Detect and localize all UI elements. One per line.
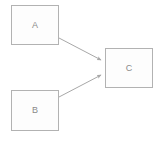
node-a-label: A — [32, 21, 38, 30]
node-c[interactable]: C — [105, 48, 153, 88]
edge-b-to-c — [59, 75, 101, 97]
node-b[interactable]: B — [11, 90, 59, 131]
node-a[interactable]: A — [11, 5, 59, 45]
diagram-canvas: A B C — [0, 0, 160, 142]
node-b-label: B — [32, 106, 38, 115]
node-c-label: C — [126, 64, 133, 73]
edge-a-to-c — [59, 38, 101, 60]
